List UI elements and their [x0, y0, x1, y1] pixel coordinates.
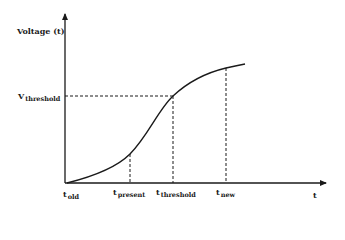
t-present-main: t [113, 187, 117, 197]
voltage-curve [67, 64, 245, 183]
v-threshold-main: V [18, 91, 24, 101]
y-axis-label: Voltage (t) [17, 27, 64, 35]
t-old-sub: old [68, 193, 79, 201]
t-threshold-main: t [156, 187, 160, 197]
t-new-label: tnew [216, 188, 235, 197]
t-threshold-sub: threshold [161, 191, 196, 199]
x-axis-label: t [313, 191, 317, 199]
v-threshold-sub: threshold [25, 95, 60, 103]
t-old-label: told [63, 190, 79, 199]
t-new-main: t [216, 187, 220, 197]
t-new-sub: new [221, 191, 235, 199]
v-threshold-label: Vthreshold [18, 92, 60, 101]
t-old-main: t [63, 189, 67, 199]
t-present-sub: present [118, 191, 146, 199]
t-present-label: tpresent [113, 188, 145, 197]
t-threshold-label: tthreshold [156, 188, 196, 197]
